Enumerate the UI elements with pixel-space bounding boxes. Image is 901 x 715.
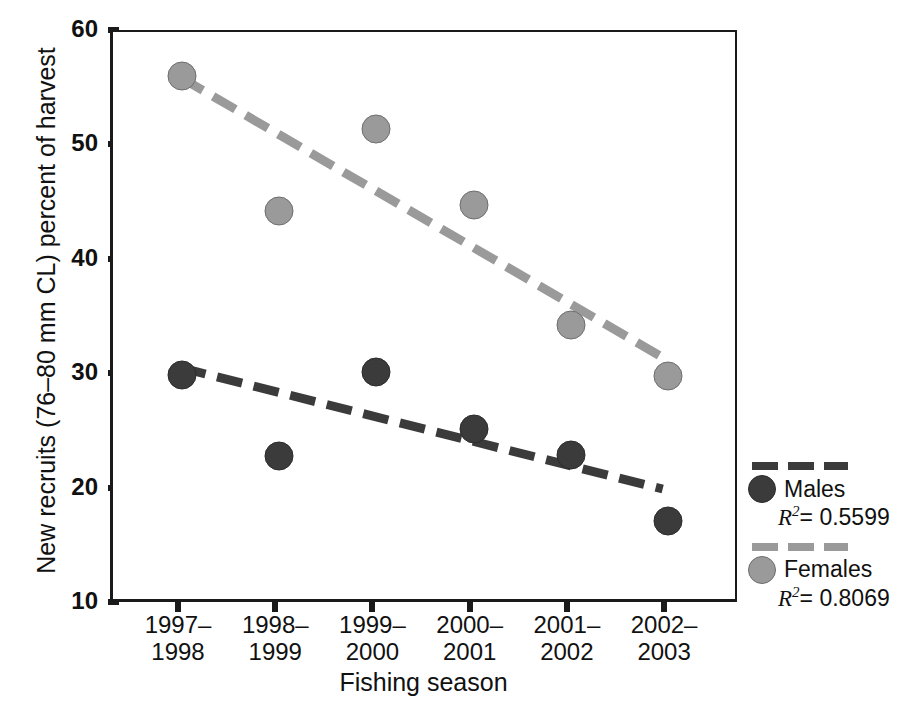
legend-row-males: Males <box>748 475 898 503</box>
y-tick-label: 40 <box>36 244 98 272</box>
legend-dash-males-icon <box>752 462 848 470</box>
legend-label-males: Males <box>784 476 845 503</box>
data-point-male <box>556 441 585 470</box>
legend-dash-females-icon <box>752 543 848 551</box>
trendline-male <box>181 368 663 489</box>
data-point-male <box>654 507 683 536</box>
y-tick-label: 50 <box>36 129 98 157</box>
figure-scatter-recruitment: New recruits (76–80 mm CL) percent of ha… <box>0 0 901 715</box>
data-point-female <box>168 62 197 91</box>
r-value-males: = 0.5599 <box>800 504 890 530</box>
r-exponent-males: 2 <box>792 503 800 519</box>
data-point-female <box>265 197 294 226</box>
chart-legend: Males R2= 0.5599 Females R2= 0.8069 <box>748 462 898 623</box>
data-point-male <box>265 442 294 471</box>
y-tick-label: 10 <box>36 587 98 615</box>
r-symbol-females: R <box>778 585 792 610</box>
plot-area <box>110 30 737 602</box>
data-point-female <box>459 190 488 219</box>
y-tick-label: 20 <box>36 473 98 501</box>
legend-r2-females: R2= 0.8069 <box>778 584 898 612</box>
legend-marker-females-icon <box>748 556 776 584</box>
legend-row-females: Females <box>748 556 898 584</box>
x-tick-label-line: 2003 <box>604 639 724 666</box>
data-point-male <box>362 357 391 386</box>
y-axis-title: New recruits (76–80 mm CL) percent of ha… <box>32 11 61 611</box>
r-value-females: = 0.8069 <box>800 584 890 610</box>
r-symbol-males: R <box>778 505 792 530</box>
data-point-female <box>654 362 683 391</box>
x-tick-label: 2002–2003 <box>604 612 724 666</box>
x-axis-title: Fishing season <box>110 668 737 697</box>
r-exponent-females: 2 <box>792 584 800 600</box>
legend-marker-males-icon <box>748 475 776 503</box>
data-point-female <box>362 115 391 144</box>
legend-r2-males: R2= 0.5599 <box>778 503 898 531</box>
data-point-male <box>459 414 488 443</box>
legend-label-females: Females <box>784 556 872 583</box>
trendline-female <box>181 77 663 357</box>
data-point-female <box>556 310 585 339</box>
data-point-male <box>168 361 197 390</box>
y-tick-label: 60 <box>36 15 98 43</box>
x-tick-label-line: 2002– <box>604 612 724 639</box>
legend-group-females: Females R2= 0.8069 <box>748 543 898 612</box>
y-tick-label: 30 <box>36 358 98 386</box>
legend-group-males: Males R2= 0.5599 <box>748 462 898 531</box>
plot-inner <box>113 32 735 599</box>
trendline-layer <box>113 32 735 599</box>
